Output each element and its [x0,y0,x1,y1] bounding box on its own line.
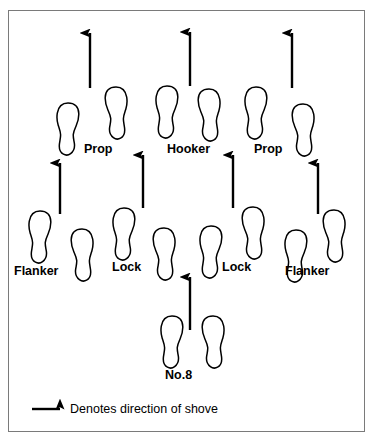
position-label-prop-left: Prop [84,143,112,156]
footprint-lock-left-right-foot [113,208,135,260]
footprint-lock-left-left-foot [153,228,175,280]
footprint-prop-right-right-foot [245,87,267,139]
footprint-hooker-left-foot [198,89,220,141]
scrum-diagram: PropHookerPropFlankerLockLockFlankerNo.8… [0,0,376,444]
footprint-prop-left-left-foot [105,87,127,139]
footprint-flanker-left-left-foot [71,229,93,281]
position-label-flanker-right: Flanker [285,265,329,278]
position-label-lock-left: Lock [112,261,141,274]
footprint-hooker-right-foot [156,86,178,138]
footprint-no8-left-foot [202,316,224,368]
legend-text: Denotes direction of shove [70,403,218,416]
footprint-flanker-right-left-foot [323,210,345,262]
position-label-lock-right: Lock [222,261,251,274]
position-label-prop-right: Prop [254,143,282,156]
footprint-prop-right-left-foot [292,104,314,156]
footprint-lock-right-left-foot [242,207,264,259]
footprint-no8-right-foot [161,316,183,368]
position-label-number-eight: No.8 [165,369,192,382]
position-label-flanker-left: Flanker [14,265,58,278]
footprint-flanker-left-right-foot [29,211,51,263]
footprint-lock-right-right-foot [200,226,222,278]
shove-arrows-group [60,32,318,330]
footprint-prop-left-right-foot [57,103,79,155]
footprints-group [29,86,345,368]
position-label-hooker: Hooker [167,143,210,156]
